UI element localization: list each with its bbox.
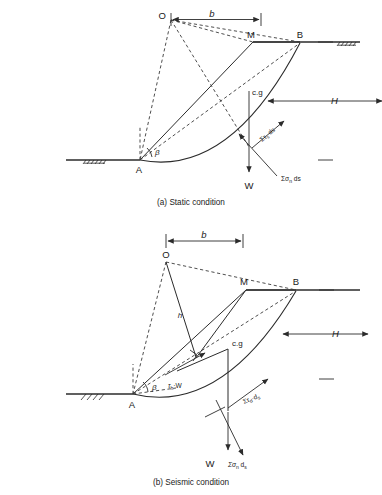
dimension-b-label: b xyxy=(209,8,214,19)
slope-face-line-AB xyxy=(133,290,246,394)
normal-stress-arrow xyxy=(205,400,243,455)
figure-seismic-condition: h τh·W W Σσn ds xyxy=(0,222,382,495)
shear-stress-label: Στd·ds xyxy=(242,392,262,407)
line-OM xyxy=(171,20,253,42)
normal-stress-arrow xyxy=(239,134,277,176)
point-label-A: A xyxy=(136,164,143,175)
beta-angle-label: β xyxy=(151,383,157,392)
point-label-A: A xyxy=(129,399,136,410)
weight-force-W: W xyxy=(245,91,254,191)
weight-force-W: W xyxy=(206,412,228,469)
point-label-M: M xyxy=(240,276,248,287)
moment-arm-label-h: h xyxy=(178,311,183,320)
center-of-gravity-label: c.g xyxy=(232,339,243,348)
normal-stress-label: Σσn ds xyxy=(281,175,301,184)
point-label-O: O xyxy=(159,10,166,21)
dimension-b: b xyxy=(166,229,243,248)
figure-static-condition: b H W Σσn ds Στs ds c.g xyxy=(0,0,382,222)
seismic-condition-drawing: h τh·W W Σσn ds xyxy=(0,222,382,495)
radius-line-OB xyxy=(171,20,300,42)
dimension-H: H xyxy=(283,290,368,379)
figure-caption-static: (a) Static condition xyxy=(157,198,225,207)
moment-arm-line-h xyxy=(166,262,196,357)
ground-hatching-left xyxy=(81,394,104,400)
radius-line-OB xyxy=(166,262,296,290)
dimension-H: H xyxy=(268,42,382,160)
weight-label-W: W xyxy=(245,180,254,191)
static-condition-drawing: b H W Σσn ds Στs ds c.g xyxy=(0,0,382,222)
point-label-B: B xyxy=(293,276,299,287)
seismic-force-arrow xyxy=(165,353,205,375)
shear-stress-arrow xyxy=(228,379,268,408)
cg-horizontal-line xyxy=(177,349,228,371)
radius-line-OA xyxy=(140,20,171,160)
dimension-b-label: b xyxy=(201,229,206,240)
dimension-H-label: H xyxy=(331,95,338,106)
seismic-force-label: τh·W xyxy=(168,382,182,391)
weight-label-W: W xyxy=(206,458,215,469)
point-label-O: O xyxy=(162,249,169,260)
line-O-to-arc-point xyxy=(171,20,249,147)
radius-line-OA xyxy=(133,262,166,394)
point-label-B: B xyxy=(297,29,303,40)
center-of-gravity-label: c.g xyxy=(252,88,263,97)
point-label-M: M xyxy=(247,29,255,40)
beta-angle-label: β xyxy=(154,148,160,157)
dimension-H-label: H xyxy=(332,328,339,339)
normal-stress-label: Σσn ds xyxy=(227,461,247,470)
slope-face-line-AB xyxy=(140,42,253,160)
chord-line-AB xyxy=(133,291,296,394)
figure-caption-seismic: (b) Seismic condition xyxy=(153,478,229,487)
chord-line-AB xyxy=(140,43,300,160)
